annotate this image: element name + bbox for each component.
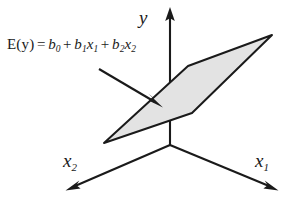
- x2-axis: [66, 145, 171, 191]
- equation-term1-variable-subscript: 1: [94, 44, 99, 54]
- equation-term1-coefficient-subscript: 1: [82, 44, 87, 54]
- equation-term1-coefficient: b: [74, 36, 82, 52]
- equation-term0-subscript: 0: [56, 44, 61, 54]
- equation-term1-variable: x: [87, 36, 94, 52]
- equation-term2-variable-subscript: 2: [131, 44, 136, 54]
- equation-pointer-arrow: [99, 69, 163, 108]
- x2-axis-label: x2: [63, 150, 77, 172]
- regression-plane-figure: E(y)=b0+b1x1+b2x2 y x2 x1: [0, 0, 292, 202]
- diagram-canvas: [0, 0, 292, 202]
- x2-axis-label-subscript: 2: [71, 161, 77, 173]
- equation-term2-coefficient: b: [112, 36, 120, 52]
- y-axis-label-text: y: [139, 7, 147, 28]
- y-axis: [165, 7, 175, 145]
- equation-plus-1: +: [61, 36, 75, 52]
- expected-value-equation: E(y)=b0+b1x1+b2x2: [7, 36, 136, 53]
- equation-plus-2: +: [98, 36, 112, 52]
- x2-axis-line: [75, 145, 170, 186]
- x1-axis-label-subscript: 1: [263, 161, 269, 173]
- equation-term2-coefficient-subscript: 2: [120, 44, 125, 54]
- equation-equals: =: [34, 36, 48, 52]
- y-axis-label: y: [139, 7, 147, 29]
- equation-pointer-line: [99, 69, 155, 102]
- equation-lhs: E(y): [7, 36, 34, 52]
- equation-term0-coefficient: b: [48, 36, 56, 52]
- x1-axis-label: x1: [255, 150, 269, 172]
